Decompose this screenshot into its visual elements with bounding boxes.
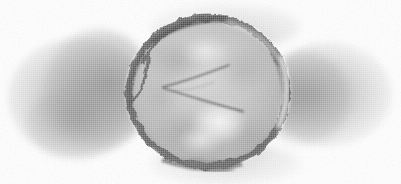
stain-cloud-left-lobe: [26, 88, 122, 158]
capsid-grain: [122, 12, 294, 172]
virus-particle: [122, 12, 294, 174]
micrograph-figure: [0, 0, 401, 184]
